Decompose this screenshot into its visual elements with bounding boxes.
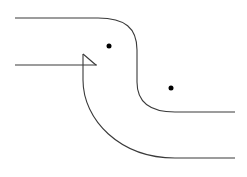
diagram-canvas [0,0,247,177]
diagram-svg [0,0,247,177]
point-lower [169,86,174,91]
lower-boundary [83,54,235,158]
point-group [107,44,174,91]
point-upper [107,44,112,49]
cusp-diagonal [83,54,96,65]
curve-group [15,18,235,158]
